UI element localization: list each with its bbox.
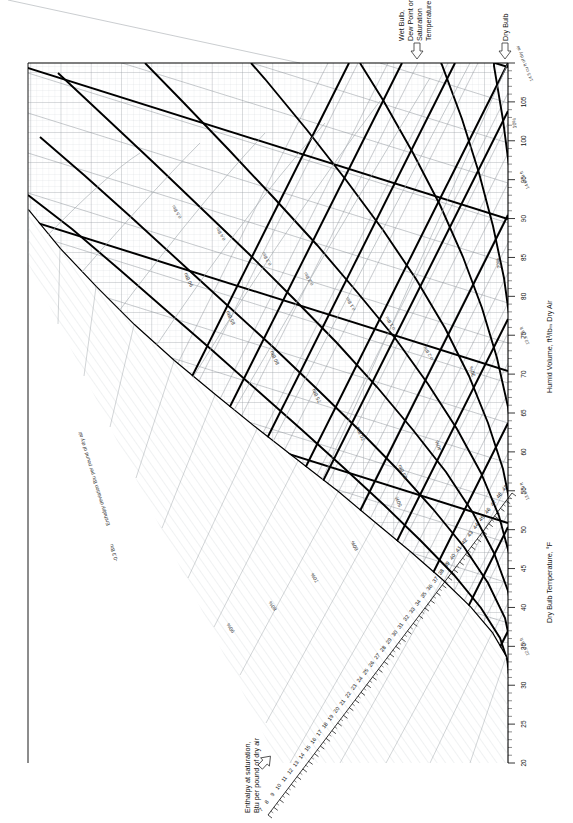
wet-bulb-line-1: Wet Bulb, [397,10,406,41]
db-tick-label: 20 [520,759,527,767]
enthalpy-sat-line-1: Enthalpy at saturation, [243,741,252,813]
dry-bulb-short-label: Dry Bulb [499,13,511,59]
db-tick-label: 40 [520,603,527,611]
dry-bulb-axis-label: Dry Bulb Temperature, °F [545,541,554,623]
psychrometric-chart-page: 0102030405060708090100110120130140150160… [0,0,573,823]
psychrometric-chart-svg: 0102030405060708090100110120130140150160… [0,0,573,823]
rh-label: 10% [510,117,517,128]
humid-volume-axis-label: Humid Volume, ft³/lbₘ Dry Air [545,300,554,393]
db-tick-label: 80 [520,292,527,300]
db-tick-label: 50 [520,526,527,534]
enthalpy-sat-line-2: Btu per pound of dry air [252,737,261,813]
db-tick-label: 45 [520,565,527,573]
db-tick-label: 90 [520,215,527,223]
wet-bulb-line-3: Saturation [415,8,424,41]
db-tick-label: 30 [520,681,527,689]
db-tick-label: 25 [520,720,527,728]
wet-bulb-line-4: Temperature [424,1,433,41]
chart-rotation-wrapper: 0102030405060708090100110120130140150160… [0,0,573,823]
db-tick-label: 65 [520,409,527,417]
db-tick-label: 100 [520,135,527,146]
db-tick-label: 60 [520,448,527,456]
db-tick-label: 105 [520,96,527,107]
dry-bulb-short-text: Dry Bulb [501,13,510,41]
db-tick-label: 70 [520,370,527,378]
db-tick-label: 85 [520,253,527,261]
wet-bulb-line-2: Dew Point or [406,0,415,41]
